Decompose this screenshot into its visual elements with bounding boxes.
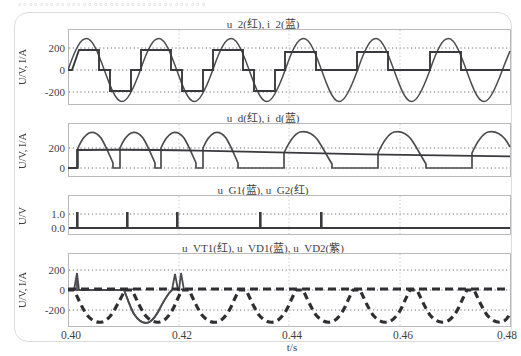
xtick-3: 0.46 <box>393 329 413 341</box>
ytick-u2-i2-200: 200 <box>29 42 65 54</box>
panel-u2-i2: u_2(红), i_2(蓝) U/V, I/A 200 0 -200 <box>15 15 511 105</box>
ylabel-uvt1: U/V, I/A <box>17 255 28 325</box>
ytick-uvt1-neg200: -200 <box>29 304 65 316</box>
xtick-4: 0.48 <box>497 329 517 341</box>
panel-uvt1-uvd1-uvd2: u_VT1(红), u_VD1(蓝), u_VD2(紫) U/V, I/A 20… <box>15 239 511 343</box>
xlabel-t-s: t/s <box>287 341 297 353</box>
ytick-ud-id-0: 0 <box>29 162 65 174</box>
ylabel-ug1-ug2: U/V <box>17 197 28 235</box>
plot-area-ud-id <box>68 123 511 177</box>
plot-area-ug1-ug2 <box>68 195 511 235</box>
plot-area-uvt1-uvd1-uvd2 <box>68 253 511 327</box>
panel-ug1-ug2: u_G1(蓝), u_G2(红) U/V 1.0 0.0 <box>15 181 511 237</box>
ytick-u2-i2-0: 0 <box>29 64 65 76</box>
ytick-u2-i2-neg200: -200 <box>29 86 65 98</box>
xtick-1: 0.42 <box>172 329 192 341</box>
figure-container: u_2(红), i_2(蓝) U/V, I/A 200 0 -200 <box>14 12 512 342</box>
clipped-text-above-figure: 。。。。。。。。。。。。。。。。。。。。。。。。。。。。。。。。。。。 <box>18 0 498 8</box>
xtick-2: 0.44 <box>282 329 302 341</box>
panel-ud-id: u_d(红), i_d(蓝) U/V, I/A 200 0 <box>15 109 511 179</box>
ytick-ud-id-200: 200 <box>29 142 65 154</box>
ylabel-ud-id: U/V, I/A <box>17 125 28 177</box>
ytick-ug-1: 1.0 <box>29 208 65 220</box>
ylabel-u2-i2: U/V, I/A <box>17 31 28 103</box>
ytick-uvt1-200: 200 <box>29 264 65 276</box>
plot-area-u2-i2 <box>68 29 511 105</box>
ytick-ug-0: 0.0 <box>29 222 65 234</box>
xtick-0: 0.40 <box>61 329 81 341</box>
ytick-uvt1-0: 0 <box>29 284 65 296</box>
